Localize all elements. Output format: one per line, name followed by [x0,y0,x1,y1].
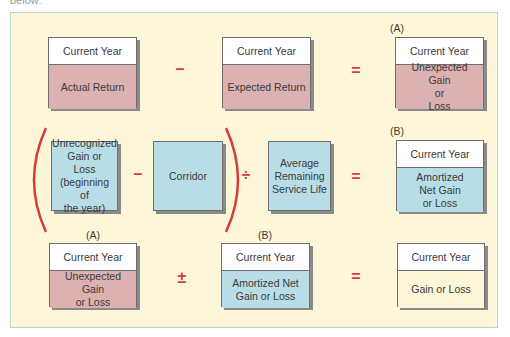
body-line: the year) [64,202,105,215]
body-line: Average [280,157,319,170]
left-parenthesis [28,125,50,235]
corridor-box: Corridor [153,141,223,211]
body-line: Gain or Loss [55,150,114,176]
body-line: Net Gain [419,184,460,197]
label-b: (B) [245,229,285,241]
equals-operator: = [346,168,366,186]
body-line: Amortized [416,171,463,184]
box-header: Current Year [50,244,136,271]
box-header: Current Year [49,38,136,65]
body-line: Unexpected Gain [399,61,480,87]
body-line: Unrecognized [52,137,117,150]
box-header: Current Year [223,38,310,65]
gain-or-loss-box: Current Year Gain or Loss [397,243,485,307]
body-line: Loss [428,100,450,113]
body-line: or Loss [76,296,110,309]
unexpected-gain-loss-box: Current Year Unexpected Gain or Loss [49,243,137,307]
body-line: Amortized Net [232,277,299,290]
box-body: Amortized Net Gain or Loss [397,168,483,212]
body-line: (beginning of [55,176,114,202]
divide-operator: ÷ [236,166,256,184]
body-line: Unexpected Gain [53,270,133,296]
box-body: Corridor [154,142,222,210]
body-line: Gain or Loss [236,290,296,303]
plus-minus-operator: ± [172,269,192,287]
amortized-net-gain-loss-box: Current Year Amortized Net Gain or Loss [396,140,484,211]
body-line: Service Life [272,183,327,196]
box-header: Current Year [398,244,484,271]
unexpected-gain-loss-box: Current Year Unexpected Gain or Loss [395,37,484,108]
box-body: Expected Return [223,65,310,109]
average-remaining-service-life-box: Average Remaining Service Life [268,141,331,211]
box-body: Amortized Net Gain or Loss [222,271,309,308]
minus-operator: – [128,165,148,183]
box-body: Unexpected Gain or Loss [50,271,136,308]
body-line: Remaining [274,170,324,183]
equals-operator: = [346,268,366,286]
equals-operator: = [346,62,366,80]
minus-operator: – [170,60,190,78]
label-b: (B) [377,125,417,137]
amortized-net-gain-loss-box: Current Year Amortized Net Gain or Loss [221,243,310,307]
actual-return-box: Current Year Actual Return [48,37,137,108]
label-a: (A) [377,22,417,34]
body-line: or [435,87,444,100]
cropped-caption-text: below: [10,0,42,6]
box-header: Current Year [222,244,309,271]
expected-return-box: Current Year Expected Return [222,37,311,108]
box-body: Actual Return [49,65,136,109]
box-body: Unexpected Gain or Loss [396,65,483,109]
body-line: or Loss [423,197,457,210]
box-body: Unrecognized Gain or Loss (beginning of … [52,142,117,210]
box-header: Current Year [397,141,483,168]
box-body: Average Remaining Service Life [269,142,330,210]
unrecognized-gain-loss-box: Unrecognized Gain or Loss (beginning of … [51,141,118,211]
box-body: Gain or Loss [398,271,484,308]
label-a: (A) [73,229,113,241]
